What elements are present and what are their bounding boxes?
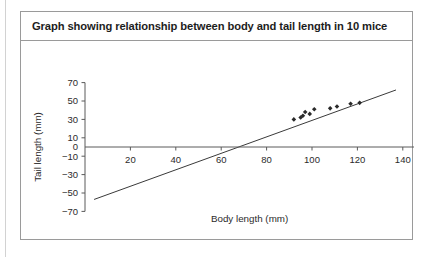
page-margin-rule bbox=[5, 0, 6, 257]
data-point bbox=[292, 117, 297, 122]
data-point bbox=[335, 104, 340, 109]
chart-title-bar: Graph showing relationship between body … bbox=[21, 12, 412, 41]
x-tick-label: 120 bbox=[349, 154, 365, 165]
y-tick-label: 50 bbox=[67, 95, 78, 106]
data-point bbox=[357, 101, 362, 106]
y-axis-title: Tail length (mm) bbox=[32, 112, 43, 182]
y-tick-label: −70 bbox=[62, 206, 78, 217]
x-tick-label: 140 bbox=[395, 154, 411, 165]
data-point bbox=[328, 106, 333, 111]
trend-line bbox=[94, 90, 396, 199]
chart-title: Graph showing relationship between body … bbox=[21, 20, 387, 32]
scatter-chart: 705030100−10−30−50−7020406080100120140 B… bbox=[21, 41, 414, 240]
x-tick-label: 60 bbox=[216, 154, 227, 165]
y-tick-label: 70 bbox=[67, 77, 78, 88]
x-tick-label: 80 bbox=[261, 154, 272, 165]
data-point bbox=[312, 107, 317, 112]
x-tick-label: 40 bbox=[171, 154, 182, 165]
x-axis-title: Body length (mm) bbox=[211, 213, 288, 224]
y-tick-label: −10 bbox=[62, 151, 78, 162]
trend-line-group bbox=[94, 90, 396, 199]
y-tick-label: 30 bbox=[67, 114, 78, 125]
data-point bbox=[303, 110, 308, 115]
data-points-group bbox=[292, 101, 362, 122]
chart-panel: Graph showing relationship between body … bbox=[20, 11, 413, 240]
data-point bbox=[307, 112, 312, 117]
y-tick-label: −30 bbox=[62, 169, 78, 180]
y-tick-label: −50 bbox=[62, 187, 78, 198]
x-tick-label: 20 bbox=[125, 154, 136, 165]
x-tick-label: 100 bbox=[304, 154, 320, 165]
plot-area: 705030100−10−30−50−7020406080100120140 B… bbox=[21, 41, 414, 240]
